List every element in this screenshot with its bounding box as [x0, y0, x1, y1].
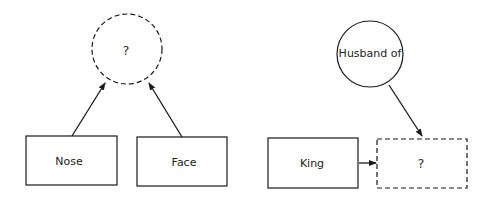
unknown-box-label: ? — [418, 156, 425, 171]
arrow-nose-to-unknown — [72, 83, 105, 136]
arrow-husband-of-to-unknown — [389, 85, 422, 136]
nose-label: Nose — [55, 155, 83, 168]
arrow-face-to-unknown — [149, 83, 182, 137]
king-label: King — [300, 157, 324, 170]
face-box: Face — [137, 137, 227, 186]
nose-box: Nose — [26, 136, 117, 185]
unknown-box-node: ? — [377, 139, 467, 188]
face-label: Face — [172, 156, 197, 169]
husband-of-label: Husband of — [339, 47, 403, 60]
unknown-circle-node: ? — [92, 14, 162, 84]
right-diagram: Husband of King ? — [268, 21, 467, 188]
husband-of-circle-node: Husband of — [337, 21, 403, 87]
left-diagram: ? Nose Face — [26, 14, 227, 186]
diagram-canvas: ? Nose Face Husband of King ? — [0, 0, 485, 204]
unknown-circle-label: ? — [123, 43, 130, 58]
king-box: King — [268, 138, 358, 188]
